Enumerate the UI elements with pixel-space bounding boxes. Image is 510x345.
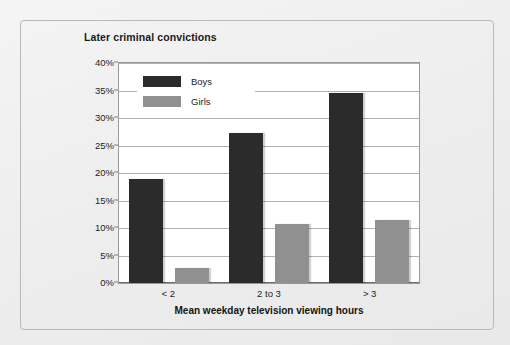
- x-axis-category-label: < 2: [118, 288, 219, 299]
- legend-swatch-girls: [143, 96, 181, 107]
- chart-page: Later criminal convictions 0%5%10%15%20%…: [0, 0, 510, 345]
- y-axis-tick-mark: [114, 282, 118, 283]
- y-axis-tick-mark: [114, 199, 118, 200]
- y-axis-tick-mark: [114, 254, 118, 255]
- y-axis-tick-mark: [114, 62, 118, 63]
- y-axis-tick-mark: [114, 144, 118, 145]
- bar-group: [319, 63, 419, 283]
- bar-girls-1: [275, 224, 309, 283]
- y-axis-tick-mark: [114, 89, 118, 90]
- legend-item-girls: Girls: [143, 93, 249, 109]
- bar-girls-2: [375, 220, 409, 283]
- y-axis-tick-label: 35%: [70, 84, 114, 95]
- bar-boys-2: [329, 93, 363, 283]
- x-axis-category-label: 2 to 3: [219, 288, 320, 299]
- y-axis-tick-label: 10%: [70, 222, 114, 233]
- legend-swatch-boys: [143, 76, 181, 87]
- chart-title: Later criminal convictions: [84, 31, 217, 43]
- y-axis-tick-mark: [114, 227, 118, 228]
- bar-boys-0: [129, 179, 163, 284]
- legend: Boys Girls: [137, 68, 255, 115]
- y-axis-tick-mark: [114, 117, 118, 118]
- legend-label-girls: Girls: [191, 96, 211, 107]
- y-axis-tick-label: 5%: [70, 249, 114, 260]
- y-axis-tick-mark: [114, 172, 118, 173]
- y-axis-tick-label: 40%: [70, 57, 114, 68]
- legend-label-boys: Boys: [191, 76, 212, 87]
- x-axis-category-label: > 3: [319, 288, 420, 299]
- y-axis-tick-label: 15%: [70, 194, 114, 205]
- bar-girls-0: [175, 268, 209, 283]
- bar-boys-1: [229, 133, 263, 283]
- y-axis-tick-label: 25%: [70, 139, 114, 150]
- legend-item-boys: Boys: [143, 73, 249, 89]
- y-axis-tick-label: 30%: [70, 112, 114, 123]
- y-axis-tick-label: 0%: [70, 277, 114, 288]
- y-axis-tick-label: 20%: [70, 167, 114, 178]
- x-axis-title: Mean weekday television viewing hours: [118, 305, 420, 316]
